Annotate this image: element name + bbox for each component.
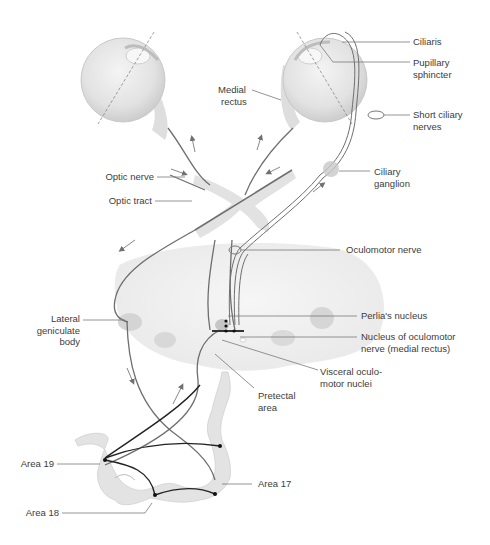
midbrain	[115, 243, 383, 370]
label-line: Pretectal	[258, 390, 296, 402]
area17-node-lower	[213, 492, 217, 496]
label-line: Lateral	[20, 313, 80, 325]
label-medial-rectus: Medial rectus	[218, 84, 247, 107]
label-line: sphincter	[413, 69, 452, 81]
label-line: Visceral oculo-	[320, 366, 382, 378]
ciliary-ganglion-node	[323, 161, 339, 177]
label-optic-tract: Optic tract	[96, 195, 152, 207]
short-ciliary-nerves-marker	[368, 111, 384, 119]
label-visceral-oculomotor-nuclei: Visceral oculo- motor nuclei	[320, 366, 382, 389]
label-line: motor nuclei	[320, 378, 382, 390]
label-ciliaris: Ciliaris	[413, 36, 442, 48]
label-line: nerves	[413, 121, 463, 133]
label-line: Nucleus of oculomotor	[361, 331, 456, 343]
label-area-19: Area 19	[10, 458, 54, 470]
area18-node	[153, 493, 157, 497]
label-line: Short ciliary	[413, 109, 463, 121]
label-line: body	[20, 336, 80, 348]
optic-chiasm	[193, 170, 296, 238]
label-optic-nerve: Optic nerve	[96, 171, 154, 183]
left-eyeball	[81, 32, 168, 140]
label-line: geniculate	[20, 325, 80, 337]
label-line: Pupillary	[413, 57, 452, 69]
label-perlias-nucleus: Perlia's nucleus	[361, 310, 427, 322]
label-line: Ciliary	[374, 166, 410, 178]
label-ciliary-ganglion: Ciliary ganglion	[374, 166, 410, 189]
label-oculomotor-nerve: Oculomotor nerve	[346, 244, 422, 256]
area19-node	[103, 458, 107, 462]
label-short-ciliary-nerves: Short ciliary nerves	[413, 109, 463, 132]
occipital-cortex	[75, 372, 231, 505]
area17-node-upper	[218, 444, 222, 448]
label-pupillary-sphincter: Pupillary sphincter	[413, 57, 452, 80]
label-line: area	[258, 402, 296, 414]
label-line: rectus	[218, 96, 247, 108]
diagram-canvas	[0, 0, 490, 545]
cortical-fibers	[105, 385, 220, 495]
label-pretectal-area: Pretectal area	[258, 390, 296, 413]
label-nucleus-oculomotor: Nucleus of oculomotor nerve (medial rect…	[361, 331, 456, 354]
label-lateral-geniculate-body: Lateral geniculate body	[20, 313, 80, 348]
label-area-18: Area 18	[14, 507, 59, 519]
label-line: ganglion	[374, 178, 410, 190]
label-line: nerve (medial rectus)	[361, 343, 456, 355]
label-area-17: Area 17	[258, 478, 291, 490]
label-line: Medial	[218, 84, 247, 96]
